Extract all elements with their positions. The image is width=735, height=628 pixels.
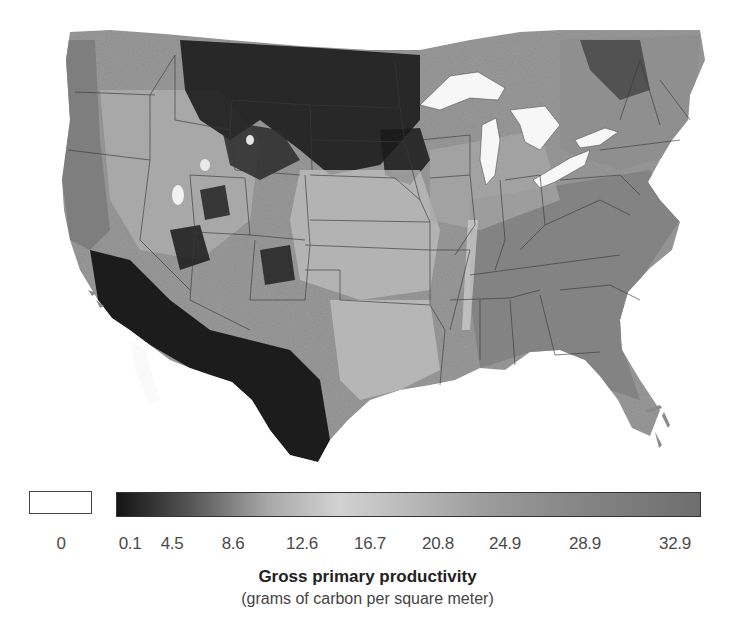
- legend-zero-label: 0: [56, 534, 65, 554]
- legend-tick: 0.1: [119, 534, 142, 554]
- legend-gradient-bar: [116, 492, 701, 517]
- legend-tick: 16.7: [354, 534, 386, 554]
- legend-tick: 4.5: [161, 534, 184, 554]
- legend-title: Gross primary productivity: [0, 567, 735, 587]
- gulf-of-california: [130, 340, 160, 405]
- legend: 0 0.1 4.5 8.6 12.6 16.7 20.8 24.9 28.9 3…: [0, 480, 735, 628]
- legend-tick: 8.6: [222, 534, 245, 554]
- legend-tick: 24.9: [489, 534, 521, 554]
- us-map-svg: [0, 0, 735, 470]
- legend-subtitle: (grams of carbon per square meter): [0, 590, 735, 608]
- gpp-map: [0, 0, 735, 470]
- legend-tick: 32.9: [659, 534, 691, 554]
- legend-zero-swatch: [29, 491, 92, 514]
- legend-tick: 28.9: [569, 534, 601, 554]
- legend-tick: 12.6: [286, 534, 318, 554]
- legend-tick: 20.8: [422, 534, 454, 554]
- land-fill: [0, 0, 735, 470]
